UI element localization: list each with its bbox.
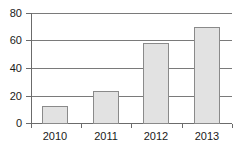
x-axis-label-2013: 2013 xyxy=(184,130,230,143)
x-tick-2 xyxy=(131,124,132,128)
x-axis-label-2012: 2012 xyxy=(133,130,179,143)
x-tick-1 xyxy=(81,124,82,128)
gridline-80 xyxy=(31,13,232,14)
bar-2013 xyxy=(194,27,220,124)
bar-2010 xyxy=(42,106,68,124)
bar-chart: 80 60 40 20 0 2010 2011 2012 2013 xyxy=(0,0,234,147)
x-axis-label-2011: 2011 xyxy=(83,130,129,143)
plot-area: 80 60 40 20 0 2010 2011 2012 2013 xyxy=(0,0,234,147)
y-tick-40 xyxy=(26,68,31,69)
y-axis-label-60: 60 xyxy=(0,35,22,46)
bar-2012 xyxy=(143,43,169,124)
y-tick-20 xyxy=(26,96,31,97)
y-axis-label-20: 20 xyxy=(0,91,22,102)
x-tick-3 xyxy=(182,124,183,128)
x-axis-label-2010: 2010 xyxy=(32,130,78,143)
x-tick-end xyxy=(232,124,233,128)
x-tick-start xyxy=(31,124,32,128)
bar-2011 xyxy=(93,91,119,124)
y-tick-80 xyxy=(26,13,31,14)
y-axis-label-40: 40 xyxy=(0,63,22,74)
y-tick-60 xyxy=(26,40,31,41)
y-axis-line xyxy=(31,13,32,124)
y-axis-label-80: 80 xyxy=(0,8,22,19)
y-axis-label-0: 0 xyxy=(0,118,22,129)
